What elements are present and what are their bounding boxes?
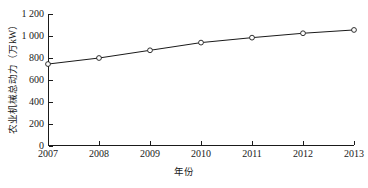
x-tick-mark [303, 141, 304, 145]
data-point-marker [46, 62, 51, 67]
x-tick-label: 2007 [26, 148, 70, 160]
y-tick-mark [49, 80, 53, 81]
y-tick-label: 600 [0, 75, 44, 85]
data-point-marker [148, 48, 153, 53]
data-point-marker [97, 56, 102, 61]
data-series-group [48, 14, 354, 146]
data-point-marker [301, 31, 306, 36]
line-chart: 农业机械总动力（万kW） 02004006008001 0001 200 200… [0, 0, 368, 188]
plot-area [48, 14, 354, 146]
x-tick-mark [48, 141, 49, 145]
series-line [48, 30, 354, 64]
y-tick-mark [49, 36, 53, 37]
x-tick-mark [99, 141, 100, 145]
y-tick-label: 800 [0, 53, 44, 63]
x-tick-label: 2013 [332, 148, 368, 160]
data-point-marker [250, 35, 255, 40]
x-tick-label: 2008 [77, 148, 121, 160]
x-tick-mark [252, 141, 253, 145]
x-tick-label: 2011 [230, 148, 274, 160]
y-tick-label: 1 200 [0, 9, 44, 19]
x-tick-mark [354, 141, 355, 145]
y-tick-label: 1 000 [0, 31, 44, 41]
x-tick-mark [150, 141, 151, 145]
y-tick-label: 400 [0, 97, 44, 107]
y-tick-mark [49, 146, 53, 147]
y-tick-mark [49, 124, 53, 125]
data-point-marker [352, 28, 357, 33]
y-tick-mark [49, 14, 53, 15]
y-tick-mark [49, 102, 53, 103]
x-axis-tick-labels: 2007200820092010201120122013 [48, 148, 354, 164]
x-tick-mark [201, 141, 202, 145]
y-tick-label: 200 [0, 119, 44, 129]
x-tick-label: 2010 [179, 148, 223, 160]
data-point-marker [199, 40, 204, 45]
x-axis-title: 年份 [0, 164, 368, 178]
x-tick-label: 2009 [128, 148, 172, 160]
y-tick-mark [49, 58, 53, 59]
x-tick-label: 2012 [281, 148, 325, 160]
